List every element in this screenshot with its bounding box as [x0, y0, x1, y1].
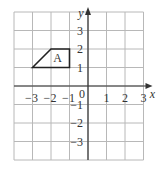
shape-label: A	[53, 51, 62, 65]
x-tick-label: 3	[141, 91, 147, 105]
coordinate-grid-diagram: A −3−2−1123321−1−2−30xy	[0, 0, 167, 173]
y-tick-label: 1	[77, 61, 83, 75]
x-tick-label: −3	[25, 91, 38, 105]
x-tick-label: −2	[44, 91, 57, 105]
x-tick-label: 1	[104, 91, 110, 105]
y-axis-label: y	[77, 6, 84, 20]
y-axis-arrow-icon	[85, 7, 91, 15]
x-axis-label: x	[149, 87, 156, 101]
origin-label: 0	[79, 87, 85, 101]
y-tick-label: 2	[77, 42, 83, 56]
y-tick-label: −2	[70, 116, 83, 130]
y-tick-label: 3	[77, 24, 83, 38]
tick-labels: −3−2−1123321−1−2−30xy	[25, 6, 156, 149]
x-tick-label: 2	[122, 91, 128, 105]
y-tick-label: −3	[70, 135, 83, 149]
axes	[14, 7, 153, 160]
